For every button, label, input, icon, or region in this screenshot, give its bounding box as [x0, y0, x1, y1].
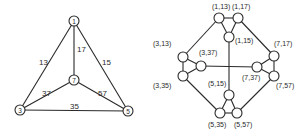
node-label: (5,15) [208, 80, 226, 88]
node-label: (5,35) [208, 121, 226, 129]
node-label: (3,13) [153, 40, 171, 48]
edge-label: 15 [102, 58, 111, 67]
edge-label: 57 [98, 89, 107, 98]
node-label: (3,37) [199, 49, 217, 57]
node-5_57 [232, 108, 242, 118]
node-5_35 [215, 108, 225, 118]
node-7_37 [252, 62, 262, 72]
node-3_37 [196, 61, 206, 71]
node-label: (3,35) [153, 82, 171, 90]
node-label: (7,57) [276, 82, 294, 90]
edge-label: 35 [70, 102, 79, 111]
node-7_17 [269, 51, 279, 61]
node-1_17 [233, 13, 243, 23]
edge-7_57-5_57 [237, 76, 274, 113]
left-graph-edges [20, 21, 128, 111]
edge-label: 13 [39, 58, 48, 67]
node-5_15 [224, 90, 234, 100]
node-label: (1,13) [212, 3, 230, 11]
node-label: (7,17) [274, 40, 292, 48]
graph-diagram: 131715375735 1735 (1,13)(1,17)(1,15)(3,1… [0, 0, 305, 133]
node-label: (7,37) [242, 74, 260, 82]
node-label: 5 [126, 108, 130, 115]
edge-3_37-7_37 [201, 66, 257, 67]
node-label: 1 [72, 18, 76, 25]
edge-label: 17 [77, 45, 86, 54]
node-1_13 [214, 13, 224, 23]
node-1_15 [224, 32, 234, 42]
node-7_57 [269, 71, 279, 81]
edge-label: 37 [42, 89, 51, 98]
node-3_35 [178, 71, 188, 81]
node-label: 7 [72, 77, 76, 84]
node-3_13 [178, 52, 188, 62]
node-label: (5,57) [234, 121, 252, 129]
node-label: (1,17) [232, 3, 250, 11]
node-label: 3 [18, 107, 22, 114]
node-label: (1,15) [235, 37, 253, 45]
